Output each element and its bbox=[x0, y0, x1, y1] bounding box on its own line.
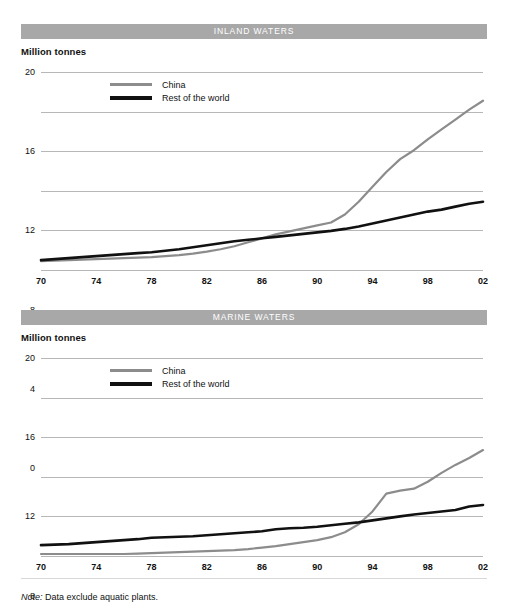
x-axis-tick-label: 78 bbox=[146, 276, 156, 286]
section-title-marine: MARINE WATERS bbox=[213, 313, 296, 322]
footnote-divider bbox=[21, 578, 487, 579]
x-axis-tick-label: 98 bbox=[423, 276, 433, 286]
figure-page: INLAND WATERS Million tonnes 04812162070… bbox=[0, 0, 510, 614]
footnote-text: Data exclude aquatic plants. bbox=[43, 592, 159, 602]
legend-label-china: China bbox=[162, 366, 186, 376]
legend-inland: China Rest of the world bbox=[110, 78, 230, 104]
footnote: Note: Data exclude aquatic plants. bbox=[21, 592, 158, 602]
x-axis-tick-label: 98 bbox=[423, 562, 433, 572]
section-header-inland: INLAND WATERS bbox=[21, 24, 487, 39]
x-axis-tick-label: 74 bbox=[91, 562, 101, 572]
legend-swatch-china-icon bbox=[110, 369, 152, 372]
legend-swatch-rest-of-world-icon bbox=[110, 96, 152, 100]
section-header-marine: MARINE WATERS bbox=[21, 310, 487, 325]
x-axis-tick-label: 90 bbox=[312, 276, 322, 286]
x-axis-tick-label: 86 bbox=[257, 562, 267, 572]
y-axis-tick-label: 12 bbox=[25, 225, 35, 235]
legend-label-rest-of-world: Rest of the world bbox=[162, 379, 230, 389]
unit-label-marine: Million tonnes bbox=[21, 332, 86, 343]
x-axis-tick-label: 82 bbox=[202, 276, 212, 286]
x-axis-tick-label: 82 bbox=[202, 562, 212, 572]
legend-item-china: China bbox=[110, 364, 230, 377]
x-axis-tick-label: 70 bbox=[36, 276, 46, 286]
y-axis-tick-label: 20 bbox=[25, 67, 35, 77]
y-axis-tick-label: 16 bbox=[25, 432, 35, 442]
legend-label-china: China bbox=[162, 80, 186, 90]
unit-label-inland: Million tonnes bbox=[21, 46, 86, 57]
legend-item-rest-of-world: Rest of the world bbox=[110, 91, 230, 104]
section-title-inland: INLAND WATERS bbox=[214, 27, 295, 36]
y-axis-tick-label: 20 bbox=[25, 353, 35, 363]
plot-area-marine: 048121620707478828690949802 bbox=[41, 358, 483, 556]
footnote-prefix: Note: bbox=[21, 592, 43, 602]
gridline: 0 bbox=[41, 270, 483, 271]
legend-item-rest-of-world: Rest of the world bbox=[110, 377, 230, 390]
plot-area-inland: 048121620707478828690949802 bbox=[41, 72, 483, 270]
y-axis-tick-label: 4 bbox=[30, 384, 35, 394]
series-line-china bbox=[41, 450, 483, 554]
legend-label-rest-of-world: Rest of the world bbox=[162, 93, 230, 103]
y-axis-tick-label: 0 bbox=[30, 463, 35, 473]
y-axis-tick-label: 16 bbox=[25, 146, 35, 156]
legend-swatch-china-icon bbox=[110, 83, 152, 86]
series-line-rest-of-the-world bbox=[41, 505, 483, 545]
y-axis-tick-label: 12 bbox=[25, 511, 35, 521]
x-axis-tick-label: 90 bbox=[312, 562, 322, 572]
gridline: 0 bbox=[41, 556, 483, 557]
x-axis-tick-label: 94 bbox=[367, 276, 377, 286]
x-axis-tick-label: 02 bbox=[478, 276, 488, 286]
x-axis-tick-label: 74 bbox=[91, 276, 101, 286]
series-layer bbox=[41, 72, 483, 270]
x-axis-tick-label: 70 bbox=[36, 562, 46, 572]
series-line-rest-of-the-world bbox=[41, 202, 483, 260]
x-axis-tick-label: 86 bbox=[257, 276, 267, 286]
legend-item-china: China bbox=[110, 78, 230, 91]
x-axis-tick-label: 78 bbox=[146, 562, 156, 572]
legend-swatch-rest-of-world-icon bbox=[110, 382, 152, 386]
legend-marine: China Rest of the world bbox=[110, 364, 230, 390]
x-axis-tick-label: 94 bbox=[367, 562, 377, 572]
x-axis-tick-label: 02 bbox=[478, 562, 488, 572]
series-layer bbox=[41, 358, 483, 556]
